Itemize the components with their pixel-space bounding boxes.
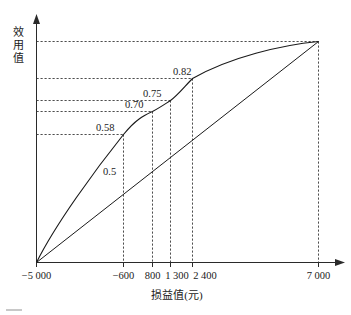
value-label-0-75: 0.75 <box>143 88 161 99</box>
x-tick-label-2400: 2 400 <box>193 270 217 281</box>
x-tick-label-7000: 7 000 <box>307 270 331 281</box>
x-tick-labels-group: −5 000 −600 800 1 300 2 400 7 000 <box>22 270 331 281</box>
horizontal-guides-group <box>37 42 319 135</box>
utility-curve-figure: 效 用 值 <box>0 0 351 315</box>
chart-canvas: 0.58 0.70 0.75 0.82 0.5 −5 000 −600 800 … <box>0 0 351 315</box>
x-axis-title: 损益值(元) <box>151 288 203 302</box>
x-tick-marks-group <box>37 263 319 268</box>
x-tick-label-minus-5000: −5 000 <box>22 270 52 281</box>
value-label-0-70: 0.70 <box>125 99 143 110</box>
x-tick-label-800: 800 <box>145 270 161 281</box>
x-axis-arrow-icon <box>335 259 345 266</box>
value-label-0-5: 0.5 <box>103 166 116 177</box>
x-tick-label-1300: 1 300 <box>165 270 189 281</box>
x-tick-label-minus-600: −600 <box>113 270 135 281</box>
value-label-0-82: 0.82 <box>173 66 191 77</box>
vertical-guides-group <box>124 42 319 263</box>
caption-rule <box>6 309 22 311</box>
figure-caption-strip <box>0 304 351 315</box>
value-label-0-58: 0.58 <box>96 122 114 133</box>
curve-value-labels-group: 0.58 0.70 0.75 0.82 0.5 <box>96 66 191 177</box>
y-axis-arrow-icon <box>33 14 40 24</box>
